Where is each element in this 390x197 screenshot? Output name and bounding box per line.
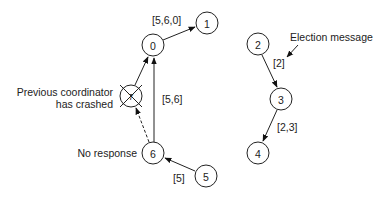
node-2: 2 (247, 33, 269, 55)
edge-0-to-1 (163, 27, 195, 40)
crashed-annotation-line1: Previous coordinator (17, 86, 114, 98)
node-1: 1 (196, 12, 218, 34)
edge-5-to-6 (165, 158, 195, 171)
node-0: 0 (142, 34, 164, 56)
nodes: 0 1 7 6 5 2 3 4 (120, 12, 292, 187)
node-4-label: 4 (255, 148, 261, 160)
node-5: 5 (195, 165, 217, 187)
node-4: 4 (247, 142, 269, 164)
node-1-label: 1 (204, 18, 210, 30)
node-5-label: 5 (203, 171, 209, 183)
edge-6-to-7-dashed (136, 108, 149, 142)
election-message-pointer (287, 45, 298, 57)
node-3: 3 (270, 88, 292, 110)
annotations: Previous coordinator has crashed No resp… (17, 31, 373, 159)
edge-label-3-4: [2,3] (277, 121, 298, 133)
node-7-crashed: 7 (120, 85, 142, 107)
node-3-label: 3 (278, 94, 284, 106)
edge-label-0-1: [5,6,0] (152, 14, 181, 26)
node-6-label: 6 (150, 148, 156, 160)
node-6: 6 (142, 142, 164, 164)
crashed-annotation-line2: has crashed (56, 98, 113, 110)
edge-label-6-0: [5,6] (162, 93, 183, 105)
edge-label-2-3: [2] (273, 57, 285, 69)
no-response-annotation: No response (77, 147, 137, 159)
edge-label-5-6: [5] (173, 172, 185, 184)
node-0-label: 0 (150, 40, 156, 52)
node-2-label: 2 (255, 39, 261, 51)
ring-election-diagram: 0 1 7 6 5 2 3 4 (0, 0, 390, 197)
election-message-annotation: Election message (290, 31, 373, 43)
node-7-label: 7 (128, 92, 133, 102)
edge-7-to-0 (135, 57, 148, 85)
edge-3-to-4 (263, 110, 277, 141)
